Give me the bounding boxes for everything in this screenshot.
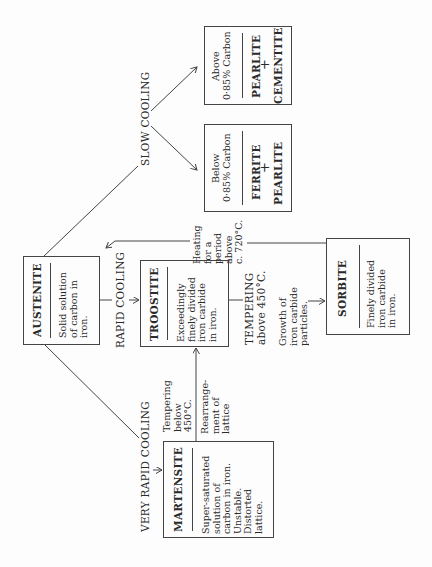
slow-cooling-label: SLOW COOLING [139, 80, 153, 166]
slow-to-below-arrow [151, 126, 197, 170]
austenite-to-very-rapid-line [44, 344, 139, 438]
above-condition: Above 0·85% Carbon [211, 32, 237, 100]
rearrangement-label: Rearrange- ment of lattice [200, 382, 234, 434]
above-phase2: CEMENTITE [272, 28, 286, 104]
below-plus: + [258, 160, 272, 176]
heating-label: Heating for a period above c. 720°C. [192, 218, 246, 264]
heating-return-arrow [106, 241, 115, 248]
tempering-below-label: Tempering below 450°C. [162, 382, 194, 432]
troostite-description: Exceedingly finely divided iron carbide … [176, 266, 224, 342]
sorbite-description: Finely divided iron carbide in iron. [366, 250, 406, 328]
below-condition: Below 0·85% Carbon [211, 130, 237, 206]
austenite-to-slow-cooling-line [44, 166, 138, 256]
above-plus: + [258, 57, 272, 73]
diagram-canvas: Above 0·85% Carbon PEARLITE + CEMENTITE … [0, 0, 432, 567]
sorbite-title: SORBITE [336, 250, 350, 326]
martensite-description: Super-saturated solution of carbon in ir… [201, 450, 269, 534]
rapid-cooling-label: RAPID COOLING [114, 258, 128, 348]
growth-label: Growth of iron carbide particles. [278, 280, 314, 346]
austenite-description: Solid solution of carbon in iron. [58, 262, 96, 338]
slow-to-above-arrow [151, 67, 197, 111]
below-phase2: PEARLITE [272, 140, 286, 206]
martensite-title: MARTENSITE [172, 450, 186, 532]
tempering-above-label: TEMPERING above 450°C. [243, 265, 271, 345]
troostite-title: TROOSTITE [148, 266, 162, 342]
very-rapid-cooling-label: VERY RAPID COOLING [139, 400, 153, 534]
austenite-title: AUSTENITE [31, 262, 45, 338]
